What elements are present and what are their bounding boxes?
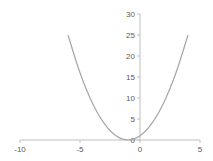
y-tick-label: 5 [131,115,136,124]
y-tick-label: 25 [126,31,135,40]
x-tick-label: -10 [14,145,26,154]
y-tick-label: 0 [131,136,136,145]
y-tick-label: 20 [126,52,135,61]
x-tick-label: -5 [76,145,84,154]
y-tick-label: 30 [126,10,135,19]
parabola-line [68,35,188,140]
y-tick-label: 10 [126,94,135,103]
axes [20,14,200,143]
data-series [68,35,188,140]
x-tick-label: 0 [138,145,143,154]
parabola-chart: -10-505051015202530 [0,0,213,161]
y-tick-label: 15 [126,73,135,82]
tick-labels: -10-505051015202530 [14,10,203,154]
x-tick-label: 5 [198,145,203,154]
